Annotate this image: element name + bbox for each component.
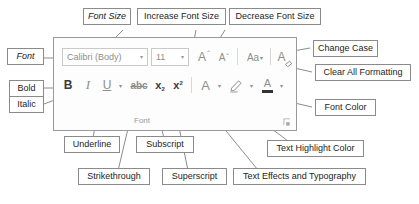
underline-options-button[interactable]: ▾ xyxy=(115,74,126,96)
text-highlight-color-button[interactable] xyxy=(226,74,247,96)
font-size-value: 11 xyxy=(152,52,177,62)
font-color-icon: A xyxy=(264,78,271,89)
increase-font-size-caret-icon: ⌃ xyxy=(206,49,211,56)
callout-text-effects-and-typography: Text Effects and Typography xyxy=(233,168,366,185)
text-effects-options-button[interactable]: ▾ xyxy=(214,74,224,96)
highlighter-pen-icon xyxy=(228,77,245,94)
bold-icon: B xyxy=(64,78,73,92)
eraser-icon xyxy=(285,59,293,67)
subscript-icon: x2 xyxy=(155,79,164,92)
decrease-font-size-button[interactable]: A ⌄ xyxy=(215,47,234,67)
decrease-font-size-icon: A xyxy=(219,52,226,63)
callout-font-size: Font Size xyxy=(83,8,131,25)
callout-font: Font xyxy=(7,48,44,65)
font-name-value: Calibri (Body) xyxy=(63,52,136,62)
font-color-swatch xyxy=(262,90,273,93)
increase-font-size-icon: A xyxy=(198,50,206,64)
callout-strikethrough: Strikethrough xyxy=(78,168,150,185)
subscript-index: 2 xyxy=(161,86,164,92)
dialog-launcher-glyph xyxy=(283,118,291,126)
underline-icon: U xyxy=(103,78,112,92)
font-color-options-button[interactable]: ▾ xyxy=(276,74,286,96)
callout-underline: Underline xyxy=(64,136,120,153)
callout-decrease-font-size: Decrease Font Size xyxy=(229,8,321,25)
font-name-combobox[interactable]: Calibri (Body) ▾ xyxy=(62,48,148,66)
strikethrough-icon: abc xyxy=(130,80,147,91)
callout-clear-all-formatting: Clear All Formatting xyxy=(315,64,411,81)
divider-before-text-effects xyxy=(191,77,192,93)
ribbon-row-top: Calibri (Body) ▾ 11 ▾ A ⌃ A ⌄ Aa ▾ xyxy=(54,46,296,68)
subscript-button[interactable]: x2 xyxy=(151,74,169,96)
ribbon-row-bottom: B I U ▾ abc x2 xyxy=(54,74,296,98)
callout-font-color: Font Color xyxy=(315,99,376,116)
increase-font-size-button[interactable]: A ⌃ xyxy=(195,47,214,67)
callout-increase-font-size: Increase Font Size xyxy=(137,8,226,25)
strikethrough-button[interactable]: abc xyxy=(128,74,150,96)
font-ribbon-group: Calibri (Body) ▾ 11 ▾ A ⌃ A ⌄ Aa ▾ xyxy=(53,37,297,131)
font-group-label: Font xyxy=(134,116,150,125)
italic-button[interactable]: I xyxy=(79,74,97,96)
callout-subscript: Subscript xyxy=(136,136,194,153)
font-size-chevron-down-icon[interactable]: ▾ xyxy=(177,54,188,60)
callout-bold: Bold xyxy=(9,80,44,97)
font-size-combobox[interactable]: 11 ▾ xyxy=(151,48,189,66)
superscript-button[interactable]: x2 xyxy=(169,74,187,96)
font-color-button[interactable]: A xyxy=(258,74,277,96)
underline-button[interactable]: U xyxy=(98,74,116,96)
divider-after-change-case xyxy=(270,48,271,65)
font-dialog-launcher-icon[interactable] xyxy=(283,118,291,126)
bold-button[interactable]: B xyxy=(59,74,77,96)
text-effects-button[interactable]: A xyxy=(196,74,215,96)
underline-chevron-down-icon: ▾ xyxy=(119,82,122,89)
text-highlight-color-options-button[interactable]: ▾ xyxy=(246,74,256,96)
change-case-button[interactable]: Aa ▾ xyxy=(242,47,268,67)
text-effects-icon: A xyxy=(201,78,210,93)
callout-change-case: Change Case xyxy=(313,40,378,57)
italic-icon: I xyxy=(86,77,90,93)
callout-superscript: Superscript xyxy=(162,168,227,185)
change-case-icon: Aa xyxy=(247,52,259,63)
font-name-chevron-down-icon[interactable]: ▾ xyxy=(136,54,147,60)
callout-text-highlight-color: Text Highlight Color xyxy=(267,140,364,157)
change-case-chevron-down-icon: ▾ xyxy=(260,54,263,61)
clear-all-formatting-button[interactable]: A xyxy=(274,47,296,67)
font-color-chevron-down-icon: ▾ xyxy=(280,82,283,89)
decrease-font-size-caret-icon: ⌄ xyxy=(225,49,230,56)
text-effects-chevron-down-icon: ▾ xyxy=(218,82,221,89)
text-highlight-chevron-down-icon: ▾ xyxy=(250,82,253,89)
callout-italic: Italic xyxy=(9,96,44,113)
superscript-icon: x2 xyxy=(173,79,182,91)
divider-after-size-buttons xyxy=(237,48,238,65)
superscript-index: 2 xyxy=(179,80,182,86)
annotated-ribbon-figure: Calibri (Body) ▾ 11 ▾ A ⌃ A ⌄ Aa ▾ xyxy=(0,0,419,204)
